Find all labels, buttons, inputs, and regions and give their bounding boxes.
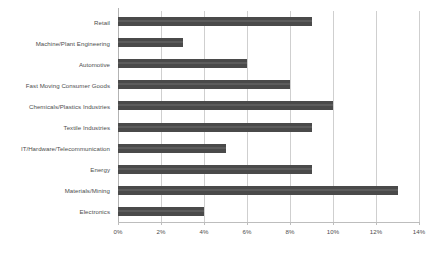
category-label: Chemicals/Plastics Industries xyxy=(0,102,110,109)
bar xyxy=(118,165,312,174)
bar-fill xyxy=(118,38,183,47)
category-axis-labels: RetailMachine/Plant EngineeringAutomotiv… xyxy=(0,11,114,222)
x-tick-mark xyxy=(290,222,291,225)
x-tick-label: 10% xyxy=(327,228,339,236)
bar xyxy=(118,123,312,132)
x-tick-label: 6% xyxy=(243,228,252,236)
bar-fill xyxy=(118,207,204,216)
bar-fill xyxy=(118,80,290,89)
bar-fill xyxy=(118,123,312,132)
bar-chart: RetailMachine/Plant EngineeringAutomotiv… xyxy=(0,0,443,253)
plot-area xyxy=(118,11,419,222)
bar-fill xyxy=(118,17,312,26)
bar xyxy=(118,17,312,26)
x-tick-mark xyxy=(161,222,162,225)
x-tick-label: 8% xyxy=(286,228,295,236)
category-label: Energy xyxy=(0,166,110,173)
category-label: Electronics xyxy=(0,208,110,215)
category-label: Materials/Mining xyxy=(0,187,110,194)
x-tick-mark xyxy=(204,222,205,225)
x-tick-label: 0% xyxy=(114,228,123,236)
category-label: Automotive xyxy=(0,60,110,67)
bar xyxy=(118,101,333,110)
bar xyxy=(118,38,183,47)
bar-fill xyxy=(118,59,247,68)
x-tick-mark xyxy=(419,222,420,225)
x-tick-label: 14% xyxy=(413,228,425,236)
x-tick-mark xyxy=(118,222,119,225)
x-tick-mark xyxy=(376,222,377,225)
category-label: IT/Hardware/Telecommunication xyxy=(0,145,110,152)
gridline-14 xyxy=(419,11,420,222)
x-axis-line xyxy=(118,222,419,223)
x-tick-label: 12% xyxy=(370,228,382,236)
x-tick-label: 4% xyxy=(200,228,209,236)
bar xyxy=(118,59,247,68)
bar-fill xyxy=(118,186,398,195)
category-label: Textile Industries xyxy=(0,124,110,131)
x-tick-mark xyxy=(333,222,334,225)
x-axis-tick-labels: 0%2%4%6%8%10%12%14% xyxy=(118,228,419,240)
bar xyxy=(118,80,290,89)
bar xyxy=(118,144,226,153)
bar xyxy=(118,186,398,195)
bar-fill xyxy=(118,165,312,174)
bar-fill xyxy=(118,101,333,110)
category-label: Machine/Plant Engineering xyxy=(0,39,110,46)
category-label: Fast Moving Consumer Goods xyxy=(0,81,110,88)
bar xyxy=(118,207,204,216)
x-tick-mark xyxy=(247,222,248,225)
category-label: Retail xyxy=(0,18,110,25)
x-tick-label: 2% xyxy=(157,228,166,236)
bar-fill xyxy=(118,144,226,153)
